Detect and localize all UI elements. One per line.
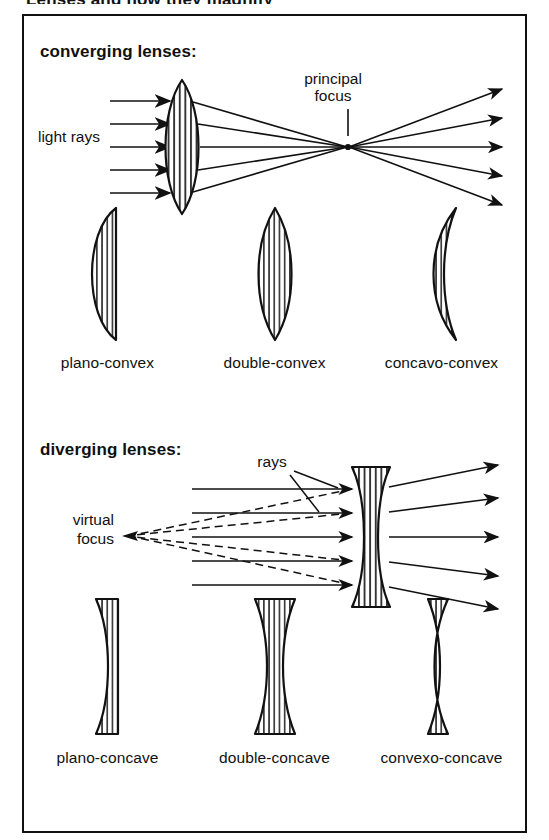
converging-lens-shapes-row: plano-convex double-convex concavo-conve… xyxy=(24,232,525,372)
double-concave-icon xyxy=(237,594,313,739)
shape-label: double-convex xyxy=(223,354,325,372)
concavo-convex-icon xyxy=(404,204,480,344)
light-rays-label-line2: rays xyxy=(257,455,287,470)
double-concave-lens-icon xyxy=(352,467,390,607)
double-convex-icon xyxy=(237,204,313,344)
incoming-rays xyxy=(110,101,170,193)
lens-shape-double-convex: double-convex xyxy=(200,204,350,372)
virtual-focus-label-line2: focus xyxy=(77,530,114,547)
principal-focus-label-line1: principal xyxy=(304,70,362,87)
shape-label: plano-convex xyxy=(61,354,154,372)
lens-shape-double-concave: double-concave xyxy=(200,594,350,767)
outgoing-diverging-rays xyxy=(389,465,498,609)
heading-converging-lenses: converging lenses: xyxy=(40,42,197,62)
light-rays-label-line1: light rays xyxy=(38,128,100,145)
virtual-focus-arrowhead xyxy=(122,531,138,541)
page-title-cropped: Lenses and how they magnify xyxy=(26,0,446,4)
virtual-focus-label-line1: virtual xyxy=(73,511,114,528)
plano-convex-icon xyxy=(70,204,146,344)
shape-label: double-concave xyxy=(219,749,330,767)
lens-shape-plano-concave: plano-concave xyxy=(33,594,183,767)
principal-focus-label-line2: focus xyxy=(314,87,351,104)
convexo-concave-icon xyxy=(404,594,480,739)
plano-concave-icon xyxy=(70,594,146,739)
lens-shape-plano-convex: plano-convex xyxy=(33,204,183,372)
lens-shape-concavo-convex: concavo-convex xyxy=(367,204,517,372)
converging-rays xyxy=(193,102,347,192)
light-rays-leader-lines xyxy=(290,471,338,512)
diverging-lens-shapes-row: plano-concave double-concave convexo-con… xyxy=(24,622,525,767)
shape-label: plano-concave xyxy=(56,749,158,767)
lens-diagram-page: Lenses and how they magnify converging l… xyxy=(0,0,549,840)
incoming-rays xyxy=(192,489,352,585)
shape-label: concavo-convex xyxy=(385,354,498,372)
shape-label: convexo-concave xyxy=(380,749,502,767)
post-focus-rays xyxy=(349,89,502,205)
double-convex-lens-icon xyxy=(166,80,199,214)
lens-shape-convexo-concave: convexo-concave xyxy=(367,594,517,767)
